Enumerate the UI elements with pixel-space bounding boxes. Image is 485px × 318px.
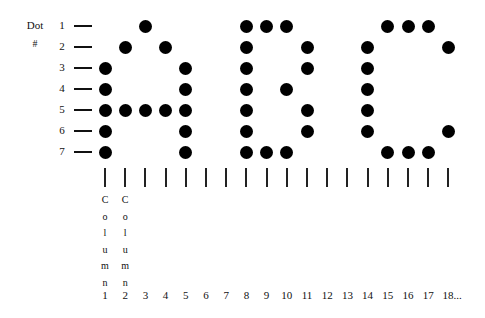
- dot-c: [402, 146, 415, 159]
- column-word-char: m: [119, 260, 131, 271]
- dot-a: [99, 83, 112, 96]
- dot-a: [159, 41, 172, 54]
- dot-c: [381, 146, 394, 159]
- row-marker-line: [74, 25, 92, 27]
- dot-a: [179, 104, 192, 117]
- dot-b: [301, 41, 314, 54]
- dot-b: [240, 20, 253, 33]
- dot-c: [361, 62, 374, 75]
- column-tick: [185, 168, 187, 187]
- column-number: 13: [337, 289, 357, 301]
- row-number: 5: [56, 103, 68, 115]
- dot-c: [361, 104, 374, 117]
- dot-c: [381, 20, 394, 33]
- column-number: 18...: [442, 289, 478, 301]
- column-word-char: m: [99, 260, 111, 271]
- dot-a: [179, 125, 192, 138]
- dot-b: [240, 62, 253, 75]
- dot-b: [280, 83, 293, 96]
- dot-a: [119, 41, 132, 54]
- row-number: 2: [56, 40, 68, 52]
- column-number: 3: [135, 289, 155, 301]
- dot-a: [119, 104, 132, 117]
- column-tick: [104, 168, 106, 187]
- column-word-char: C: [99, 194, 111, 205]
- dot-a: [179, 83, 192, 96]
- dot-a: [99, 62, 112, 75]
- row-marker-line: [74, 67, 92, 69]
- column-tick: [205, 168, 207, 187]
- dot-c: [361, 41, 374, 54]
- column-word-char: l: [119, 227, 131, 238]
- column-tick: [387, 168, 389, 187]
- row-number: 7: [56, 145, 68, 157]
- column-tick: [225, 168, 227, 187]
- row-marker-line: [74, 130, 92, 132]
- column-word-char: o: [119, 211, 131, 222]
- column-tick: [165, 168, 167, 187]
- column-number: 11: [297, 289, 317, 301]
- dot-c: [361, 125, 374, 138]
- column-word-char: o: [99, 211, 111, 222]
- dot-c: [442, 41, 455, 54]
- column-tick: [144, 168, 146, 187]
- column-word-char: u: [99, 244, 111, 255]
- dot-b: [260, 146, 273, 159]
- column-tick: [427, 168, 429, 187]
- column-tick: [124, 168, 126, 187]
- dot-a: [179, 62, 192, 75]
- column-word-char: C: [119, 194, 131, 205]
- row-marker-line: [74, 109, 92, 111]
- dot-a: [179, 146, 192, 159]
- dot-c: [422, 146, 435, 159]
- dot-b: [240, 125, 253, 138]
- dot-c: [361, 83, 374, 96]
- dot-c: [402, 20, 415, 33]
- column-number: 1: [95, 289, 115, 301]
- row-number: 1: [56, 19, 68, 31]
- column-number: 8: [236, 289, 256, 301]
- dot-axis-hash: #: [20, 38, 50, 49]
- column-number: 7: [216, 289, 236, 301]
- dot-b: [240, 146, 253, 159]
- row-number: 6: [56, 124, 68, 136]
- dot-b: [240, 83, 253, 96]
- dot-a: [139, 20, 152, 33]
- dot-a: [99, 104, 112, 117]
- dot-b: [301, 125, 314, 138]
- row-number: 4: [56, 82, 68, 94]
- column-number: 14: [358, 289, 378, 301]
- dot-b: [260, 20, 273, 33]
- dot-c: [442, 125, 455, 138]
- column-word-char: l: [99, 227, 111, 238]
- column-number: 15: [378, 289, 398, 301]
- column-word-char: n: [119, 277, 131, 288]
- column-word-char: u: [119, 244, 131, 255]
- column-number: 6: [196, 289, 216, 301]
- column-tick: [245, 168, 247, 187]
- column-tick: [407, 168, 409, 187]
- column-tick: [326, 168, 328, 187]
- column-number: 2: [115, 289, 135, 301]
- column-number: 5: [176, 289, 196, 301]
- column-number: 4: [156, 289, 176, 301]
- column-tick: [286, 168, 288, 187]
- dot-b: [301, 62, 314, 75]
- dot-b: [280, 146, 293, 159]
- column-word-char: n: [99, 277, 111, 288]
- column-number: 12: [317, 289, 337, 301]
- dot-axis-label: Dot: [20, 19, 50, 31]
- column-tick: [447, 168, 449, 187]
- column-tick: [346, 168, 348, 187]
- column-number: 17: [418, 289, 438, 301]
- column-number: 10: [277, 289, 297, 301]
- dot-a: [99, 146, 112, 159]
- column-number: 16: [398, 289, 418, 301]
- dot-b: [280, 20, 293, 33]
- column-tick: [306, 168, 308, 187]
- dot-a: [99, 125, 112, 138]
- dot-a: [139, 104, 152, 117]
- row-number: 3: [56, 61, 68, 73]
- row-marker-line: [74, 88, 92, 90]
- dot-b: [301, 104, 314, 117]
